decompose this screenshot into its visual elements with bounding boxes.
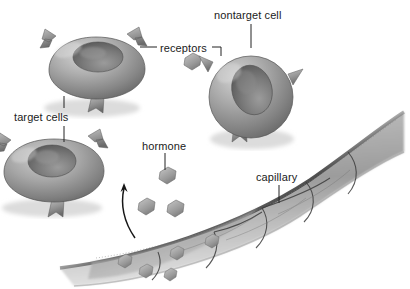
label-nontarget-cell: nontarget cell bbox=[214, 9, 281, 21]
spike bbox=[199, 56, 213, 72]
hormone-molecule bbox=[159, 167, 176, 184]
hormone-signaling-figure: nontarget cell receptors target cells ho… bbox=[0, 0, 410, 289]
nucleus-highlight bbox=[80, 47, 106, 59]
receptor bbox=[40, 29, 56, 48]
label-capillary: capillary bbox=[256, 171, 297, 183]
free-hormone-group bbox=[138, 53, 201, 217]
label-target-cells: target cells bbox=[14, 111, 68, 123]
receptor bbox=[88, 129, 108, 148]
hormone-molecule bbox=[138, 198, 155, 215]
hormone-molecule bbox=[167, 200, 184, 217]
receptor bbox=[0, 133, 11, 152]
label-receptors: receptors bbox=[160, 42, 207, 54]
leader-receptors-right bbox=[212, 47, 221, 56]
label-hormone: hormone bbox=[142, 140, 186, 152]
hormone-release-arrow bbox=[121, 183, 135, 238]
target-cell-bottom bbox=[0, 129, 108, 217]
nucleus-highlight bbox=[35, 150, 59, 164]
receptor bbox=[127, 27, 147, 46]
nontarget-cell bbox=[199, 56, 303, 149]
hormone-molecule-near-nontarget bbox=[184, 53, 201, 70]
target-cell-top bbox=[40, 27, 147, 117]
